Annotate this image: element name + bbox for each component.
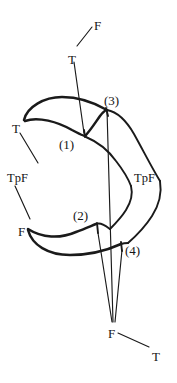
label-t-top: T (68, 53, 76, 66)
label-f-top: F (94, 19, 101, 32)
label-region-2: (2) (73, 209, 88, 222)
label-t-bottom: T (152, 350, 160, 363)
lower-inner-arc-curve (28, 224, 96, 237)
long-line-cusp2-to-bottom-f (98, 233, 112, 322)
leader-line-f-bottom-to-t-bottom (118, 333, 149, 347)
cusp1-to-cusp3-curve (85, 110, 107, 136)
label-tpf-left: TpF (7, 172, 28, 185)
long-line-cusp4-to-bottom-f (115, 250, 122, 322)
label-tpf-right: TpF (134, 172, 155, 185)
label-region-3: (3) (104, 94, 119, 107)
right-outer-s-lower-curve (128, 181, 161, 243)
leader-line-tpf-left-to-f-left (15, 186, 30, 219)
figure-canvas: F T T TpF F TpF (1) (2) (3) (4) F T (0, 0, 177, 383)
long-line-cusp3-to-bottom-f (107, 110, 113, 322)
leader-line-f-top-to-t-top (77, 27, 92, 46)
upper-outer-arc-curve (24, 97, 107, 120)
leader-line-t-left-to-body (20, 133, 38, 163)
figure-linework (0, 0, 177, 383)
label-region-1: (1) (59, 138, 74, 151)
label-f-left: F (18, 225, 25, 238)
right-inner-s-curve (110, 186, 132, 229)
label-f-bottom: F (108, 327, 115, 340)
label-t-left: T (12, 122, 20, 135)
upper-inner-arc-curve (25, 119, 85, 136)
label-region-4: (4) (125, 244, 140, 257)
cusp-2-tick-mark (97, 223, 98, 233)
